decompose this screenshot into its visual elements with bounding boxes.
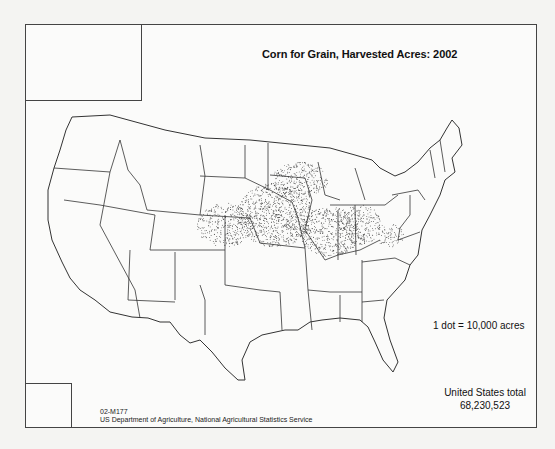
dot xyxy=(278,235,279,236)
dot xyxy=(300,222,301,223)
dot xyxy=(240,222,241,223)
dot xyxy=(316,188,317,189)
dot xyxy=(260,225,261,226)
dot xyxy=(229,243,230,244)
dot xyxy=(382,242,383,243)
dot xyxy=(232,228,233,229)
dot xyxy=(268,226,269,227)
dot xyxy=(266,202,267,203)
dot xyxy=(304,170,305,171)
dot xyxy=(353,247,354,248)
dot xyxy=(295,232,296,233)
dot xyxy=(306,181,307,182)
dot xyxy=(363,234,364,235)
dot xyxy=(266,221,267,222)
dot xyxy=(236,242,237,243)
dot xyxy=(290,233,291,234)
dot xyxy=(249,218,250,219)
dot xyxy=(236,226,237,227)
dot xyxy=(341,229,342,230)
dot xyxy=(379,229,380,230)
dot xyxy=(298,189,299,190)
dot xyxy=(298,217,299,218)
dot xyxy=(236,232,237,233)
dot xyxy=(351,240,352,241)
dot xyxy=(260,215,261,216)
dot xyxy=(304,169,305,170)
dot xyxy=(209,210,210,211)
dot xyxy=(398,228,399,229)
dot xyxy=(249,215,250,216)
dot xyxy=(345,213,346,214)
dot xyxy=(305,234,306,235)
dot xyxy=(289,167,290,168)
dot xyxy=(268,190,269,191)
dot xyxy=(336,230,337,231)
dot xyxy=(216,204,217,205)
dot xyxy=(315,227,316,228)
dot xyxy=(212,229,213,230)
dot xyxy=(394,237,395,238)
dot xyxy=(335,244,336,245)
dot xyxy=(318,247,319,248)
dot xyxy=(315,252,316,253)
dot xyxy=(278,184,279,185)
dot xyxy=(366,227,367,228)
dot xyxy=(345,226,346,227)
dot xyxy=(236,242,237,243)
dot xyxy=(201,218,202,219)
dot xyxy=(301,224,302,225)
dot xyxy=(301,232,302,233)
dot xyxy=(268,194,269,195)
dot xyxy=(296,190,297,191)
dot xyxy=(290,177,291,178)
dot xyxy=(337,245,338,246)
dot xyxy=(301,202,302,203)
dot xyxy=(379,218,380,219)
dot xyxy=(260,240,261,241)
dot xyxy=(278,243,279,244)
dot xyxy=(371,215,372,216)
dot xyxy=(250,217,251,218)
dot xyxy=(314,169,315,170)
dot xyxy=(254,239,255,240)
dot xyxy=(276,174,277,175)
dot xyxy=(298,202,299,203)
dot xyxy=(314,223,315,224)
dot xyxy=(293,229,294,230)
dot xyxy=(208,225,209,226)
dot xyxy=(261,226,262,227)
dot xyxy=(265,235,266,236)
dot xyxy=(310,191,311,192)
dot xyxy=(262,203,263,204)
dot xyxy=(340,242,341,243)
dot xyxy=(330,246,331,247)
dot xyxy=(241,218,242,219)
dot xyxy=(270,243,271,244)
dot xyxy=(308,177,309,178)
dot xyxy=(319,249,320,250)
dot xyxy=(296,229,297,230)
dot xyxy=(293,166,294,167)
dot xyxy=(319,209,320,210)
dot xyxy=(324,180,325,181)
dot xyxy=(328,226,329,227)
dot xyxy=(235,225,236,226)
dot xyxy=(377,222,378,223)
alaska-inset xyxy=(25,24,142,101)
dot xyxy=(242,234,243,235)
dot xyxy=(316,221,317,222)
dot xyxy=(303,221,304,222)
dot xyxy=(329,222,330,223)
dot xyxy=(267,185,268,186)
dot xyxy=(309,206,310,207)
dot xyxy=(315,238,316,239)
dot xyxy=(279,175,280,176)
dot xyxy=(326,209,327,210)
dot xyxy=(229,226,230,227)
dot xyxy=(282,188,283,189)
dot xyxy=(256,232,257,233)
dot xyxy=(336,222,337,223)
dot xyxy=(246,226,247,227)
dot xyxy=(323,256,324,257)
